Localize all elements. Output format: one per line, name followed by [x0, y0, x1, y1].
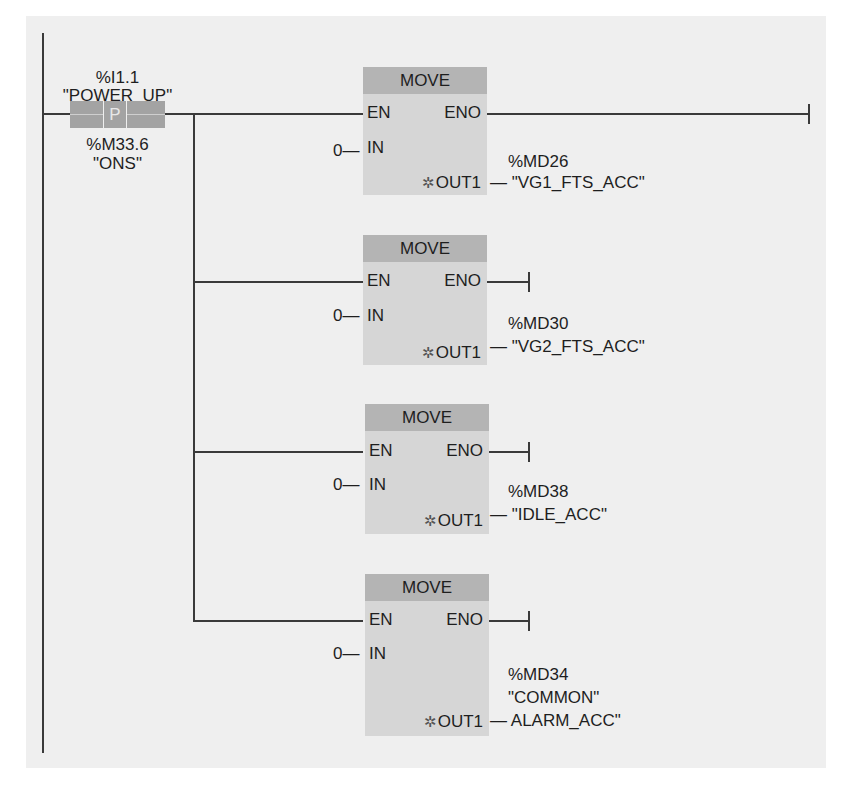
p-edge-icon: P — [104, 101, 126, 128]
in-value[interactable]: 0— — [333, 644, 359, 664]
eno-pin: ENO — [444, 271, 481, 291]
out-dash: — — [490, 173, 507, 192]
branch-wire-block3 — [193, 451, 363, 453]
eno-terminator — [528, 442, 530, 462]
in-pin: IN — [369, 475, 386, 495]
move-block-4[interactable]: MOVE EN ENO IN ✲OUT1 — [365, 574, 489, 736]
out-tag-text: "VG1_FTS_ACC" — [512, 173, 645, 192]
edge-memory-address: %M33.6 — [55, 135, 180, 155]
out-pin-label: OUT1 — [436, 173, 481, 192]
en-pin: EN — [367, 271, 391, 291]
out-tag[interactable]: — "VG2_FTS_ACC" — [490, 337, 645, 357]
eno-pin: ENO — [446, 610, 483, 630]
out-tag-text: ALARM_ACC" — [511, 711, 621, 730]
out-pin: ✲OUT1 — [424, 511, 483, 531]
contact-right-segment — [127, 101, 165, 128]
en-pin: EN — [369, 441, 393, 461]
eno-pin: ENO — [446, 441, 483, 461]
block-title: MOVE — [365, 574, 489, 601]
in-dash: — — [342, 141, 359, 160]
eno-wire-block4 — [489, 620, 529, 622]
left-power-rail — [42, 33, 44, 753]
out-pin-label: OUT1 — [436, 343, 481, 362]
eno-wire-block1 — [487, 113, 809, 115]
out-pin: ✲OUT1 — [422, 173, 481, 193]
out-pin-label: OUT1 — [438, 511, 483, 530]
in-value[interactable]: 0— — [333, 306, 359, 326]
in-value[interactable]: 0— — [333, 141, 359, 161]
in-dash: — — [342, 475, 359, 494]
block-title: MOVE — [363, 235, 487, 262]
rung-wire-rail-to-contact — [42, 113, 70, 115]
contact-address: %I1.1 — [60, 68, 175, 88]
in-pin: IN — [367, 138, 384, 158]
out-dash: — — [490, 711, 507, 730]
move-block-2[interactable]: MOVE EN ENO IN ✲OUT1 — [363, 235, 487, 365]
en-pin: EN — [369, 610, 393, 630]
out-pin: ✲OUT1 — [422, 343, 481, 363]
in-dash: — — [342, 306, 359, 325]
positive-edge-contact[interactable]: P — [70, 101, 165, 128]
eno-wire-block2 — [487, 281, 529, 283]
block-title: MOVE — [363, 67, 487, 94]
out-pin-marker-icon: ✲ — [424, 713, 437, 730]
out-tag-text: "VG2_FTS_ACC" — [512, 337, 645, 356]
out-address: %MD34 — [508, 665, 568, 685]
in-pin: IN — [367, 306, 384, 326]
out-tag-text: "IDLE_ACC" — [512, 505, 607, 524]
in-pin: IN — [369, 644, 386, 664]
out-pin: ✲OUT1 — [424, 712, 483, 732]
rung-end-terminator — [808, 104, 810, 124]
out-address: %MD30 — [508, 314, 568, 334]
parallel-branch-line — [193, 113, 195, 622]
out-dash: — — [490, 505, 507, 524]
edge-memory-tag: "ONS" — [55, 154, 180, 174]
in-dash: — — [342, 644, 359, 663]
out-dash: — — [490, 337, 507, 356]
branch-wire-block2 — [193, 281, 363, 283]
out-pin-marker-icon: ✲ — [422, 174, 435, 191]
branch-wire-block4 — [193, 620, 363, 622]
out-pin-label: OUT1 — [438, 712, 483, 731]
eno-terminator — [528, 611, 530, 631]
move-block-3[interactable]: MOVE EN ENO IN ✲OUT1 — [365, 404, 489, 534]
out-tag[interactable]: — "VG1_FTS_ACC" — [490, 173, 645, 193]
out-pin-marker-icon: ✲ — [422, 344, 435, 361]
eno-terminator — [528, 272, 530, 292]
out-tag-line1: "COMMON" — [508, 688, 599, 708]
out-pin-marker-icon: ✲ — [424, 512, 437, 529]
move-block-1[interactable]: MOVE EN ENO IN ✲OUT1 — [363, 67, 487, 195]
eno-wire-block3 — [489, 451, 529, 453]
eno-pin: ENO — [444, 103, 481, 123]
out-address: %MD26 — [508, 152, 568, 172]
en-pin: EN — [367, 103, 391, 123]
out-tag[interactable]: — ALARM_ACC" — [490, 711, 621, 731]
block-title: MOVE — [365, 404, 489, 431]
out-address: %MD38 — [508, 482, 568, 502]
contact-left-segment — [70, 101, 103, 128]
in-value[interactable]: 0— — [333, 475, 359, 495]
out-tag[interactable]: — "IDLE_ACC" — [490, 505, 607, 525]
